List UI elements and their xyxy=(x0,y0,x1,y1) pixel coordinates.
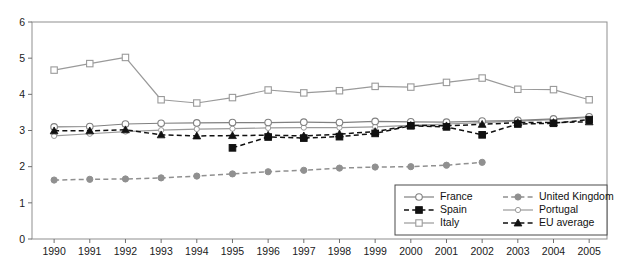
series-line xyxy=(54,57,589,103)
data-point-marker xyxy=(408,84,414,90)
y-axis-tick-label: 1 xyxy=(19,197,25,209)
y-axis-tick-label: 2 xyxy=(19,160,25,172)
line-chart: 0123456199019911992199319941995199619971… xyxy=(0,0,619,269)
data-point-marker xyxy=(336,165,342,171)
y-axis-tick-label: 6 xyxy=(19,16,25,28)
data-point-marker xyxy=(265,119,272,126)
data-point-marker xyxy=(479,132,486,139)
data-point-marker xyxy=(229,171,235,177)
data-point-marker xyxy=(193,120,200,127)
data-point-marker xyxy=(515,86,521,92)
data-point-marker xyxy=(479,159,485,165)
x-axis-tick-label: 1990 xyxy=(42,245,66,257)
data-point-marker xyxy=(372,164,378,170)
data-point-marker xyxy=(408,164,414,170)
data-point-marker xyxy=(158,175,164,181)
x-axis-tick-label: 1994 xyxy=(185,245,209,257)
data-point-marker xyxy=(158,97,164,103)
data-point-marker xyxy=(229,94,235,100)
data-point-marker xyxy=(87,176,93,182)
x-axis-tick-label: 2004 xyxy=(542,245,566,257)
data-point-marker xyxy=(51,177,57,183)
data-point-marker xyxy=(265,87,271,93)
data-point-marker xyxy=(416,207,423,214)
data-point-marker xyxy=(372,118,379,125)
data-point-marker xyxy=(230,126,235,131)
data-point-marker xyxy=(158,120,165,127)
legend-item-label: Portugal xyxy=(539,203,578,215)
data-point-marker xyxy=(586,97,592,103)
x-axis-tick-label: 1997 xyxy=(292,245,316,257)
data-point-marker xyxy=(51,67,57,73)
legend-item-label: United Kingdom xyxy=(539,190,614,202)
y-axis-tick-label: 4 xyxy=(19,88,25,100)
x-axis-tick-label: 1995 xyxy=(221,245,245,257)
x-axis-tick-label: 2005 xyxy=(577,245,601,257)
x-axis-tick-label: 1996 xyxy=(256,245,280,257)
data-point-marker xyxy=(87,60,93,66)
x-axis-tick-label: 1993 xyxy=(149,245,173,257)
data-point-marker xyxy=(515,194,521,200)
legend-item-label: France xyxy=(440,190,473,202)
legend-item-label: EU average xyxy=(539,216,595,228)
legend: FranceUnited KingdomSpainPortugalItalyEU… xyxy=(395,185,614,235)
data-point-marker xyxy=(229,145,236,152)
data-point-marker xyxy=(265,169,271,175)
legend-item-label: Italy xyxy=(440,216,460,228)
data-point-marker xyxy=(550,86,556,92)
y-axis-tick-label: 5 xyxy=(19,52,25,64)
legend-item-label: Spain xyxy=(440,203,467,215)
data-point-marker xyxy=(416,194,423,201)
data-point-marker xyxy=(372,83,378,89)
x-axis-tick-label: 2001 xyxy=(435,245,459,257)
chart-canvas: 0123456199019911992199319941995199619971… xyxy=(0,0,619,269)
data-point-marker xyxy=(301,167,307,173)
data-point-marker xyxy=(229,119,236,126)
data-point-marker xyxy=(479,75,485,81)
data-point-marker xyxy=(336,88,342,94)
y-axis-tick-label: 0 xyxy=(19,233,25,245)
x-axis-tick-label: 1999 xyxy=(363,245,387,257)
series-united-kingdom xyxy=(51,159,485,183)
x-axis-tick-label: 2003 xyxy=(506,245,530,257)
data-point-marker xyxy=(194,173,200,179)
data-point-marker xyxy=(122,54,128,60)
x-axis-tick-label: 1992 xyxy=(114,245,138,257)
data-point-marker xyxy=(194,100,200,106)
series-italy xyxy=(51,54,592,106)
data-point-marker xyxy=(443,162,449,168)
x-axis-tick-label: 2002 xyxy=(470,245,494,257)
data-point-marker xyxy=(416,220,422,226)
data-point-marker xyxy=(336,119,343,126)
x-axis-tick-label: 2000 xyxy=(399,245,423,257)
data-point-marker xyxy=(515,207,520,212)
data-point-marker xyxy=(301,90,307,96)
data-point-marker xyxy=(194,126,199,131)
data-point-marker xyxy=(301,119,308,126)
data-point-marker xyxy=(443,79,449,85)
y-axis-tick-label: 3 xyxy=(19,124,25,136)
data-point-marker xyxy=(122,176,128,182)
x-axis-tick-label: 1991 xyxy=(78,245,102,257)
x-axis-tick-label: 1998 xyxy=(328,245,352,257)
